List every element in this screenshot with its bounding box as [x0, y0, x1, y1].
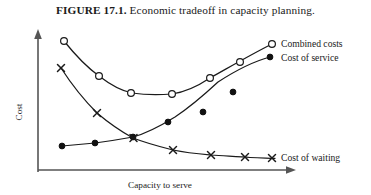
data-point: [267, 54, 273, 60]
data-point: [94, 110, 101, 117]
data-point: [58, 65, 65, 72]
chart-plot: Cost Capacity to serve: [0, 0, 371, 195]
data-point: [207, 75, 214, 82]
data-point: [230, 89, 236, 95]
data-point: [59, 143, 65, 149]
legend-label-combined-costs: Combined costs: [281, 38, 343, 49]
series-combined-costs-line: [64, 41, 272, 95]
legend-label-cost-of-waiting: Cost of waiting: [281, 152, 340, 163]
data-point: [200, 109, 206, 115]
data-point: [165, 119, 171, 125]
data-point: [237, 59, 244, 66]
figure-container: FIGURE 17.1. Economic tradeoff in capaci…: [0, 0, 371, 195]
x-axis: [38, 166, 296, 174]
legend-label-cost-of-service: Cost of service: [281, 52, 339, 63]
data-point: [96, 73, 103, 80]
data-point: [61, 38, 68, 45]
data-point: [169, 91, 176, 98]
series-cost-of-service: [59, 54, 273, 149]
y-axis-label: Cost: [14, 103, 24, 120]
data-point: [92, 140, 98, 146]
x-axis-label: Capacity to serve: [128, 180, 192, 190]
series-cost-of-service-line: [62, 57, 270, 146]
data-point: [128, 90, 135, 97]
data-point: [269, 41, 276, 48]
series-cost-of-waiting: [58, 65, 276, 162]
y-axis: [34, 29, 42, 172]
